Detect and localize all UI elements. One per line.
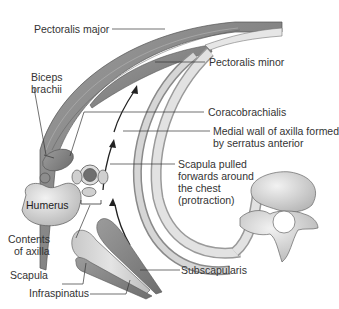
label-biceps-line2: brachii bbox=[31, 83, 62, 95]
label-infraspinatus: Infraspinatus bbox=[29, 287, 89, 299]
label-humerus: Humerus bbox=[26, 199, 69, 211]
label-scapula: Scapula bbox=[10, 269, 48, 281]
coracobrachialis-muscle bbox=[40, 173, 50, 183]
label-subscapularis: Subscapularis bbox=[181, 264, 247, 276]
label-medial-wall-line1: Medial wall of axilla formed bbox=[213, 125, 339, 137]
vertebra-bone bbox=[240, 172, 318, 262]
label-contents-line1: Contents bbox=[8, 233, 50, 245]
label-scapula-pulled-line3: the chest bbox=[178, 182, 221, 194]
label-pectoralis-major: Pectoralis major bbox=[34, 23, 109, 35]
contents-bracket bbox=[81, 200, 101, 204]
label-pectoralis-minor: Pectoralis minor bbox=[209, 56, 284, 68]
label-contents-line2: of axilla bbox=[14, 245, 50, 257]
label-scapula-pulled-line4: (protraction) bbox=[178, 194, 235, 206]
label-coracobrachialis: Coracobrachialis bbox=[208, 106, 286, 118]
label-medial-wall-line2: by serratus anterior bbox=[213, 137, 303, 149]
label-scapula-pulled-line1: Scapula pulled bbox=[178, 158, 247, 170]
label-scapula-pulled-line2: forwards around bbox=[178, 170, 254, 182]
label-biceps-line1: Biceps bbox=[31, 71, 63, 83]
